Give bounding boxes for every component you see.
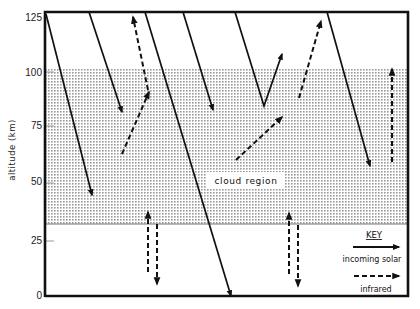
svg-text:75: 75 (31, 120, 43, 131)
cloud-region (45, 68, 408, 224)
y-axis-labels: 125 100 75 50 25 0 (25, 12, 42, 301)
y-axis-title: altitude (km) (7, 119, 17, 181)
svg-text:0: 0 (36, 290, 42, 301)
legend-solar-label: incoming solar (343, 255, 402, 264)
legend: KEY incoming solar infrared (343, 230, 402, 294)
cloud-region-label: cloud region (215, 176, 278, 186)
legend-title: KEY (366, 230, 383, 240)
radiation-diagram: cloud region 125 100 75 50 25 0 altitude… (0, 0, 420, 309)
svg-text:50: 50 (31, 176, 43, 187)
svg-text:100: 100 (25, 67, 42, 78)
svg-text:25: 25 (31, 235, 43, 246)
legend-infrared-label: infrared (360, 285, 391, 294)
svg-text:125: 125 (25, 12, 42, 23)
